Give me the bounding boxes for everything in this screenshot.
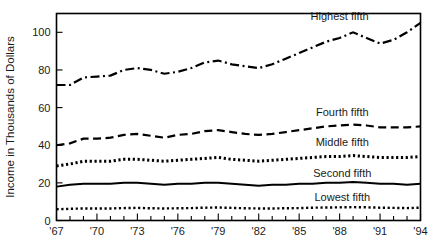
series-label-fourth-fifth: Fourth fifth	[316, 106, 369, 118]
line-chart-figure: Income in Thousands of Dollars 020406080…	[0, 0, 439, 246]
x-tick-label: '79	[211, 225, 225, 237]
series-label-highest-fifth: Highest fifth	[311, 10, 369, 22]
x-tick-label: '76	[171, 225, 185, 237]
x-tick-label: '94	[413, 225, 427, 237]
x-tick-label: '82	[252, 225, 266, 237]
y-tick-label: 60	[38, 102, 50, 114]
chart-background	[0, 0, 439, 246]
x-tick-label: '73	[130, 225, 144, 237]
series-label-lowest-fifth: Lowest fifth	[314, 191, 370, 203]
y-axis-title: Income in Thousands of Dollars	[4, 36, 16, 198]
x-tick-label: '85	[292, 225, 306, 237]
series-label-middle-fifth: Middle fifth	[316, 136, 369, 148]
y-tick-label: 80	[38, 64, 50, 76]
y-axis-title-text: Income in Thousands of Dollars	[4, 36, 16, 198]
x-tick-label: '91	[373, 225, 387, 237]
x-tick-label: '67	[49, 225, 63, 237]
x-tick-label: '88	[332, 225, 346, 237]
y-tick-label: 100	[32, 26, 50, 38]
y-tick-label: 40	[38, 139, 50, 151]
chart-canvas: Income in Thousands of Dollars 020406080…	[0, 0, 439, 246]
series-label-second-fifth: Second fifth	[313, 167, 371, 179]
x-tick-label: '70	[90, 225, 104, 237]
y-tick-label: 20	[38, 177, 50, 189]
